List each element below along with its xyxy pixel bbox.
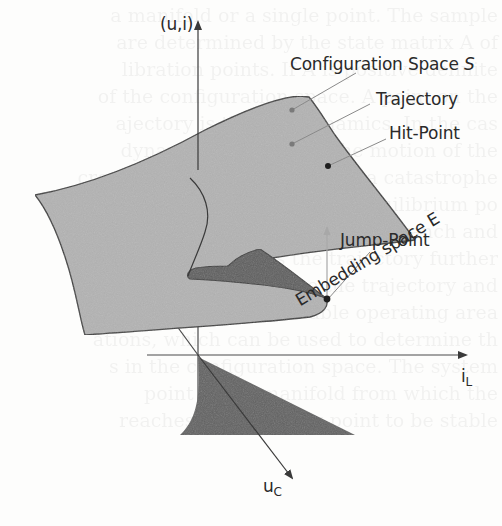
il-axis-label: iL xyxy=(461,366,472,389)
configuration-space-label: Configuration Space S xyxy=(290,54,475,74)
configuration-space-symbol: S xyxy=(464,54,475,74)
hit-point-dot xyxy=(325,163,331,169)
configuration-surface xyxy=(35,96,415,335)
uc-axis-main: u xyxy=(263,476,274,496)
config-space-dot xyxy=(289,107,294,112)
il-axis-subscript: L xyxy=(466,375,473,389)
config-space-leader xyxy=(292,73,356,110)
configuration-space-text: Configuration Space xyxy=(290,54,464,74)
cusp-catastrophe-diagram xyxy=(0,0,502,526)
hit-point-label: Hit-Point xyxy=(389,123,460,143)
vertical-axis-label: (u,i) xyxy=(160,14,193,34)
uc-axis-label: uC xyxy=(263,476,282,499)
uc-axis-subscript: C xyxy=(274,485,282,499)
trajectory-dot xyxy=(289,141,294,146)
figure-canvas: a manifold or a single point. The sample… xyxy=(0,0,502,526)
trajectory-label: Trajectory xyxy=(376,89,458,109)
jump-point-dot xyxy=(324,296,331,303)
bifurcation-set-projection xyxy=(180,357,355,435)
